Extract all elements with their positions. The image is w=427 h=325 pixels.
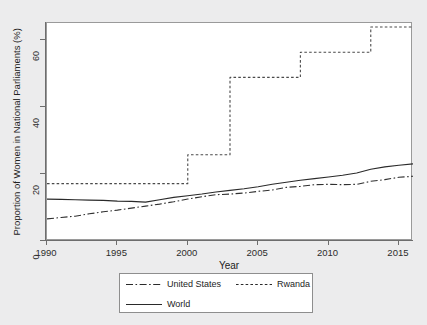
x-axis-title: Year — [46, 260, 412, 271]
y-axis-title: Proportion of Women in National Parliame… — [11, 36, 22, 236]
y-tick-label: 20 — [31, 172, 41, 208]
y-tick-label: 40 — [31, 105, 41, 141]
x-tick-mark — [46, 241, 47, 245]
legend-label: United States — [167, 279, 221, 289]
x-tick-label: 1995 — [96, 247, 136, 258]
legend-label: World — [167, 299, 190, 309]
x-axis-line — [45, 240, 413, 241]
x-tick-label: 2010 — [308, 247, 348, 258]
x-tick-mark — [116, 241, 117, 245]
plot-area — [46, 22, 412, 240]
legend: United StatesRwandaWorld — [119, 273, 313, 313]
legend-swatch-icon — [236, 281, 272, 288]
x-tick-mark — [398, 241, 399, 245]
series-line-world — [47, 164, 413, 202]
legend-item-united-states[interactable]: United States — [120, 279, 230, 289]
series-layer — [47, 23, 413, 241]
x-tick-mark — [328, 241, 329, 245]
x-tick-mark — [257, 241, 258, 245]
x-tick-label: 2000 — [167, 247, 207, 258]
chart-figure: 0204060 199019952000200520102015 Proport… — [0, 0, 427, 325]
x-tick-label: 2015 — [378, 247, 418, 258]
x-tick-label: 1990 — [26, 247, 66, 258]
series-line-united-states — [47, 176, 413, 219]
legend-label: Rwanda — [277, 279, 310, 289]
legend-item-world[interactable]: World — [120, 299, 230, 309]
y-axis-line — [45, 22, 46, 241]
y-tick-label: 60 — [31, 38, 41, 74]
x-tick-label: 2005 — [237, 247, 277, 258]
legend-item-rwanda[interactable]: Rwanda — [230, 279, 314, 289]
x-tick-mark — [187, 241, 188, 245]
legend-swatch-icon — [126, 301, 162, 308]
legend-swatch-icon — [126, 281, 162, 288]
series-line-rwanda — [47, 27, 413, 184]
legend-entries: United StatesRwandaWorld — [120, 274, 312, 312]
